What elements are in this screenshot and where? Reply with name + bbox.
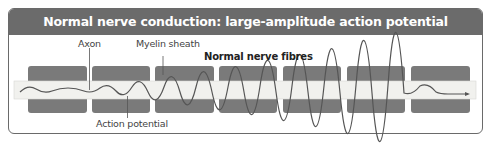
action-potential-label: Action potential	[96, 118, 168, 129]
nerve-fibre-diagram	[0, 0, 490, 149]
myelin-sheath-label: Myelin sheath	[136, 38, 200, 49]
axon-label: Axon	[78, 38, 101, 49]
fibre-type-label: Normal nerve fibres	[204, 51, 313, 62]
